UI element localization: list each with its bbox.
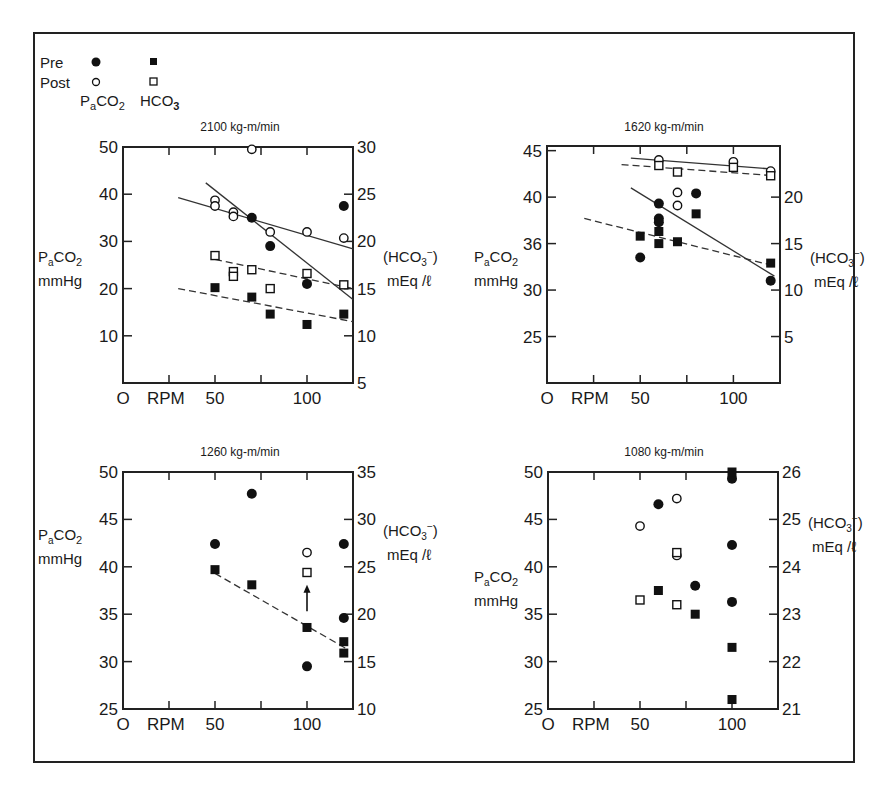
y-tick-label-right: 15 bbox=[784, 235, 803, 254]
open-circle-marker bbox=[266, 228, 274, 236]
filled-square-marker bbox=[211, 283, 220, 292]
fit-line bbox=[206, 183, 353, 300]
figure: Pre Post PaCO2 HCO3 2100 kg-m/min50100OR… bbox=[0, 0, 888, 788]
open-circle-marker bbox=[303, 228, 311, 236]
filled-circle-marker bbox=[691, 188, 701, 198]
filled-square-marker bbox=[692, 209, 701, 218]
x-axis-label: RPM bbox=[147, 715, 185, 734]
fit-line bbox=[178, 198, 353, 249]
panel-title: 2100 kg-m/min bbox=[200, 120, 279, 134]
y-tick-label-left: 45 bbox=[523, 142, 542, 161]
open-circle-marker bbox=[211, 202, 219, 210]
fit-line bbox=[631, 188, 775, 276]
x-tick-label: 50 bbox=[206, 389, 225, 408]
fit-line bbox=[215, 573, 347, 649]
y-axis-unit-right: mEq /ℓ bbox=[814, 273, 858, 290]
y-axis-title-left: PaCO2 bbox=[474, 248, 518, 268]
filled-square-marker bbox=[303, 320, 312, 329]
chart-panel-4: 1080 kg-m/min50100ORPM504540353025262524… bbox=[474, 445, 863, 734]
y-tick-label-left: 25 bbox=[524, 700, 543, 719]
filled-circle-marker bbox=[339, 613, 349, 623]
filled-circle-marker bbox=[302, 279, 312, 289]
y-axis-title-left: PaCO2 bbox=[474, 568, 518, 588]
y-tick-label-left: 50 bbox=[99, 138, 118, 157]
y-tick-label-left: 45 bbox=[99, 510, 118, 529]
y-tick-label-right: 10 bbox=[357, 327, 376, 346]
y-tick-label-right: 25 bbox=[782, 510, 801, 529]
fit-line bbox=[631, 158, 775, 169]
filled-square-marker bbox=[728, 643, 737, 652]
fit-line bbox=[622, 165, 775, 176]
filled-circle-marker bbox=[690, 581, 700, 591]
filled-circle-marker bbox=[302, 661, 312, 671]
filled-square-marker bbox=[728, 468, 737, 477]
y-tick-label-right: 5 bbox=[357, 374, 366, 393]
y-tick-label-right: 20 bbox=[784, 188, 803, 207]
plot-area bbox=[123, 147, 353, 383]
open-circle-marker bbox=[636, 522, 644, 530]
filled-circle-marker bbox=[265, 241, 275, 251]
y-axis-title-right: (HCO3−) bbox=[810, 248, 865, 269]
y-tick-label-right: 5 bbox=[784, 328, 793, 347]
y-tick-label-right: 10 bbox=[784, 281, 803, 300]
y-axis-unit-left: mmHg bbox=[38, 272, 82, 289]
y-axis-title-right: (HCO3−) bbox=[383, 247, 438, 268]
open-square-marker bbox=[729, 163, 737, 171]
legend-hco3-label: HCO3 bbox=[140, 92, 179, 112]
y-tick-label-right: 15 bbox=[357, 280, 376, 299]
y-tick-label-left: 50 bbox=[99, 463, 118, 482]
open-square-marker bbox=[673, 601, 681, 609]
y-tick-label-right: 20 bbox=[357, 232, 376, 251]
y-tick-label-right: 25 bbox=[357, 185, 376, 204]
x-tick-label: 100 bbox=[293, 715, 321, 734]
y-axis-unit-right: mEq /ℓ bbox=[387, 546, 431, 563]
y-tick-label-left: 40 bbox=[524, 558, 543, 577]
open-circle-marker bbox=[229, 212, 237, 220]
filled-square-marker bbox=[691, 610, 700, 619]
open-circle-marker bbox=[673, 201, 681, 209]
filled-square-marker bbox=[247, 293, 256, 302]
filled-square-marker bbox=[211, 565, 220, 574]
plot-area bbox=[548, 472, 778, 709]
svg-text:PaCO2: PaCO2 bbox=[80, 92, 125, 112]
y-axis-unit-left: mmHg bbox=[474, 272, 518, 289]
open-circle-marker bbox=[673, 188, 681, 196]
open-square-marker bbox=[266, 285, 274, 293]
filled-circle-marker bbox=[210, 539, 220, 549]
filled-circle-marker bbox=[654, 199, 664, 209]
plot-area bbox=[547, 146, 780, 383]
x-axis-label: RPM bbox=[571, 389, 609, 408]
y-tick-label-left: 40 bbox=[99, 185, 118, 204]
x-tick-label: 100 bbox=[293, 389, 321, 408]
x-tick-label: 100 bbox=[718, 715, 746, 734]
legend-paco2-label: PaCO2 bbox=[80, 92, 125, 112]
open-square-marker bbox=[673, 549, 681, 557]
chart-panel-2: 1620 kg-m/min50100ORPM45403630252015105P… bbox=[474, 120, 865, 408]
filled-square-marker bbox=[247, 580, 256, 589]
y-axis-title-right: (HCO3−) bbox=[383, 521, 438, 542]
open-circle-marker bbox=[303, 548, 311, 556]
filled-square-marker bbox=[654, 227, 663, 236]
y-axis-title-left: PaCO2 bbox=[38, 526, 82, 546]
y-tick-label-left: 36 bbox=[523, 235, 542, 254]
filled-circle-marker bbox=[339, 539, 349, 549]
y-tick-label-left: 30 bbox=[524, 653, 543, 672]
open-circle-marker bbox=[248, 145, 256, 153]
svg-text:HCO3: HCO3 bbox=[140, 92, 179, 112]
filled-circle-marker bbox=[247, 489, 257, 499]
y-axis-unit-left: mmHg bbox=[474, 592, 518, 609]
filled-square-marker bbox=[303, 623, 312, 632]
filled-square-marker bbox=[654, 586, 663, 595]
open-square-marker bbox=[211, 252, 219, 260]
y-tick-label-right: 23 bbox=[782, 605, 801, 624]
open-square-marker bbox=[248, 266, 256, 274]
y-tick-label-right: 25 bbox=[357, 558, 376, 577]
legend-open-square-icon bbox=[150, 78, 157, 85]
y-tick-label-left: 30 bbox=[523, 281, 542, 300]
y-tick-label-right: 22 bbox=[782, 653, 801, 672]
legend-open-circle-icon bbox=[93, 79, 100, 86]
x-tick-label: 100 bbox=[719, 389, 747, 408]
y-axis-title-left: PaCO2 bbox=[38, 248, 82, 268]
y-tick-label-left: 30 bbox=[99, 232, 118, 251]
fit-line bbox=[178, 289, 353, 322]
